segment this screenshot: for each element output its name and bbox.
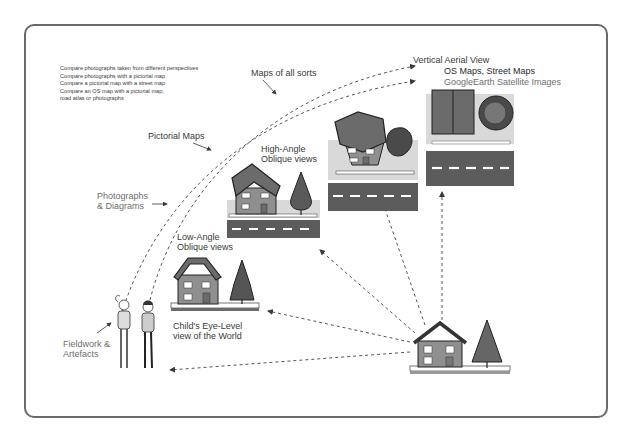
label-photographs: Photographs & Diagrams bbox=[97, 191, 148, 211]
label-fieldwork-line1: Fieldwork & bbox=[63, 339, 110, 349]
label-high-angle-line1: High-Angle bbox=[261, 144, 317, 154]
label-high-angle: High-Angle Oblique views bbox=[261, 144, 317, 164]
label-vertical-aerial: Vertical Aerial View bbox=[413, 55, 489, 65]
arrow-maps-all-sorts bbox=[263, 80, 276, 94]
arrow-fieldwork bbox=[97, 323, 111, 333]
ray-high bbox=[320, 250, 415, 333]
label-pictorial-maps: Pictorial Maps bbox=[148, 131, 205, 141]
label-photographs-line1: Photographs bbox=[97, 191, 148, 201]
low-oblique-tile bbox=[171, 258, 259, 311]
ray-oblique-top bbox=[384, 206, 425, 325]
label-low-angle: Low-Angle Oblique views bbox=[177, 232, 233, 252]
tree-icon bbox=[472, 320, 502, 362]
label-child-eye-level: Child's Eye-Level view of the World bbox=[173, 321, 242, 341]
label-low-angle-line1: Low-Angle bbox=[177, 232, 233, 242]
label-high-angle-line2: Oblique views bbox=[261, 154, 317, 164]
label-child-line2: view of the World bbox=[173, 331, 242, 341]
label-maps-all-sorts: Maps of all sorts bbox=[251, 68, 317, 78]
label-photographs-line2: & Diagrams bbox=[97, 201, 148, 211]
label-child-line1: Child's Eye-Level bbox=[173, 321, 242, 331]
ray-low bbox=[268, 311, 410, 342]
label-fieldwork: Fieldwork & Artefacts bbox=[63, 339, 110, 359]
activity-item: Compare photographs taken from different… bbox=[60, 65, 198, 73]
activity-item: road atlas or photographs bbox=[60, 95, 198, 103]
label-googleearth: GoogleEarth Satellite Images bbox=[444, 77, 561, 87]
activity-item: Compare an OS map with a pictorial map, bbox=[60, 88, 198, 96]
origin-house bbox=[410, 320, 510, 374]
arrow-pictorial-maps bbox=[193, 143, 211, 150]
label-fieldwork-line2: Artefacts bbox=[63, 349, 110, 359]
activity-item: Compare photographs with a pictorial map bbox=[60, 73, 198, 81]
tree-icon bbox=[230, 260, 254, 300]
label-os-maps: OS Maps, Street Maps bbox=[444, 66, 535, 76]
activities-list: Compare photographs taken from different… bbox=[60, 65, 198, 103]
vertical-aerial-tile bbox=[426, 90, 514, 186]
high-oblique-tile-upper bbox=[328, 112, 418, 211]
label-low-angle-line2: Oblique views bbox=[177, 242, 233, 252]
ray-child bbox=[170, 352, 410, 370]
activity-item: Compare a pictorial map with a street ma… bbox=[60, 80, 198, 88]
children-figures bbox=[116, 296, 154, 368]
high-oblique-tile bbox=[227, 164, 320, 238]
tree-icon bbox=[291, 172, 312, 210]
